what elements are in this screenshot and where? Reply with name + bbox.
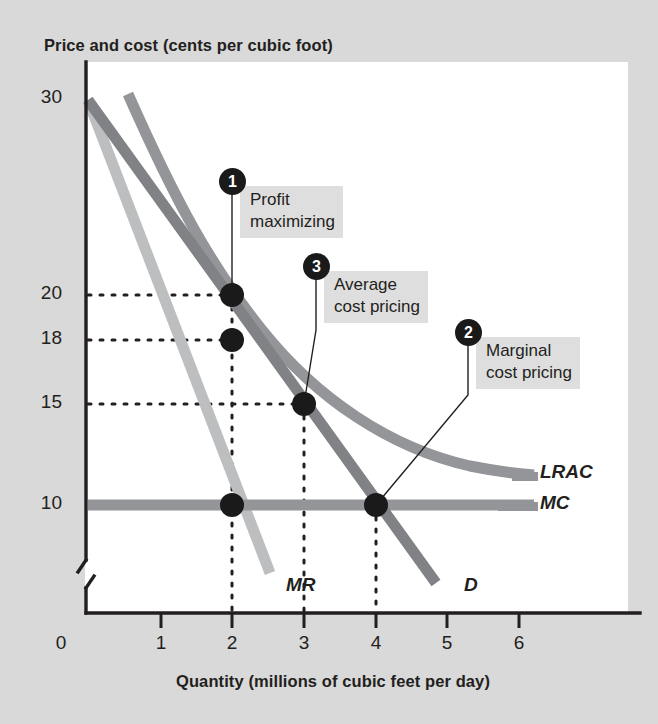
callout-3-line-1: Average <box>334 274 420 296</box>
y-tick-label-18: 18 <box>18 327 62 349</box>
x-tick-label-4: 4 <box>361 632 391 654</box>
y-tick-label-15: 15 <box>18 391 62 413</box>
x-tick-label-3: 3 <box>289 632 319 654</box>
point-q3-p15 <box>292 392 316 416</box>
callout-1-line-2: maximizing <box>250 211 335 233</box>
callout-3-line-2: cost pricing <box>334 296 420 318</box>
origin-label: 0 <box>46 632 76 654</box>
mc-curve-label: MC <box>540 492 570 514</box>
x-axis-ticks <box>161 613 519 628</box>
lrac-curve-label: LRAC <box>540 461 593 483</box>
mr-curve-label: MR <box>286 574 316 596</box>
callout-badge-2: 2 <box>455 319 482 346</box>
point-q4-p10 <box>364 493 388 517</box>
point-q2-p10 <box>220 493 244 517</box>
x-axis-title: Quantity (millions of cubic feet per day… <box>176 672 490 691</box>
y-axis-break <box>78 560 94 588</box>
y-tick-label-20: 20 <box>18 282 62 304</box>
callout-average-cost-pricing: Average cost pricing <box>324 271 428 323</box>
x-tick-label-5: 5 <box>432 632 462 654</box>
callout-profit-maximizing: Profit maximizing <box>240 186 343 238</box>
lrac-label-swatch <box>512 472 538 481</box>
y-axis-title: Price and cost (cents per cubic foot) <box>44 36 333 55</box>
x-tick-label-6: 6 <box>504 632 534 654</box>
y-tick-label-10: 10 <box>18 492 62 514</box>
point-q2-p18 <box>220 328 244 352</box>
x-tick-label-2: 2 <box>217 632 247 654</box>
callout-badge-3: 3 <box>303 253 330 280</box>
callout-marginal-cost-pricing: Marginal cost pricing <box>476 337 580 389</box>
x-tick-label-1: 1 <box>146 632 176 654</box>
leader-line-2 <box>376 337 468 505</box>
d-curve-label: D <box>464 574 478 596</box>
mc-label-swatch <box>498 502 538 511</box>
y-tick-label-30: 30 <box>18 86 62 108</box>
callout-2-line-1: Marginal <box>486 340 572 362</box>
callout-badge-1: 1 <box>219 168 246 195</box>
callout-2-line-2: cost pricing <box>486 362 572 384</box>
figure-container: Price and cost (cents per cubic foot) Qu… <box>0 0 658 724</box>
point-q2-p20 <box>220 283 244 307</box>
callout-1-line-1: Profit <box>250 189 335 211</box>
